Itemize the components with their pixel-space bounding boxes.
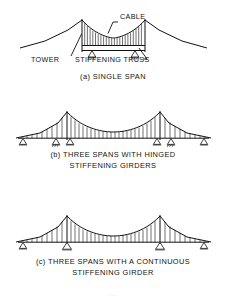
main-cable <box>67 216 160 236</box>
support-tower-left <box>62 242 72 250</box>
page-mark: --- <box>0 292 227 298</box>
panel-a-caption: (a) SINGLE SPAN <box>80 72 146 81</box>
panel-b-caption-line2: STIFFENING GIRDERS <box>70 161 157 170</box>
support-end-right <box>200 242 208 249</box>
panel-b-caption-line1: (b) THREE SPANS WITH HINGED <box>50 150 175 159</box>
support-hinge-left-outer <box>52 138 60 146</box>
support-end-right <box>200 138 208 145</box>
hanger-group <box>85 23 142 45</box>
anchor-cable-left <box>16 112 67 138</box>
support-hinge-right-outer <box>167 138 175 146</box>
cable-label: CABLE <box>120 12 145 21</box>
panel-c-caption-line1: (c) THREE SPANS WITH A CONTINUOUS <box>36 257 190 266</box>
panel-c-caption-line2: STIFFENING GIRDER <box>72 268 154 277</box>
tower-label: TOWER <box>31 55 59 64</box>
anchor-cable-left <box>16 216 67 242</box>
anchor-cable-right <box>160 112 211 138</box>
panel-a-diagram: CABLE TOWER STIFFENING TRUSS (a) SINGLE … <box>0 0 227 96</box>
backstay-cable-right <box>145 20 207 48</box>
support-end-left <box>19 138 27 145</box>
main-cable <box>67 112 160 132</box>
backstay-cable-left <box>20 20 82 48</box>
cable-leader-line <box>108 22 118 34</box>
anchor-cable-right <box>160 216 211 242</box>
main-cable <box>82 20 145 38</box>
panel-c-diagram: (c) THREE SPANS WITH A CONTINUOUS STIFFE… <box>0 192 227 301</box>
panel-b-diagram: (b) THREE SPANS WITH HINGED STIFFENING G… <box>0 96 227 192</box>
support-end-left <box>19 242 27 249</box>
tower-leader-line <box>71 34 82 56</box>
stiffening-truss-label: STIFFENING TRUSS <box>75 55 150 64</box>
figure-root: CABLE TOWER STIFFENING TRUSS (a) SINGLE … <box>0 0 227 301</box>
support-tower-right <box>155 242 165 250</box>
